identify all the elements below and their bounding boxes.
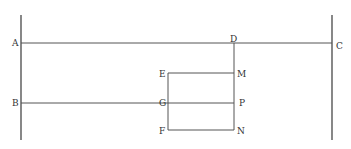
label-b: B xyxy=(12,98,19,108)
label-d: D xyxy=(230,34,237,44)
label-m: M xyxy=(237,69,246,79)
label-c: C xyxy=(336,41,343,51)
label-a: A xyxy=(11,38,19,48)
label-g: G xyxy=(159,98,166,108)
label-f: F xyxy=(159,126,165,136)
circuit-diagram: A B C D E G F M P N xyxy=(0,0,351,149)
label-p: P xyxy=(239,98,245,108)
label-e: E xyxy=(159,69,166,79)
label-n: N xyxy=(237,126,245,136)
